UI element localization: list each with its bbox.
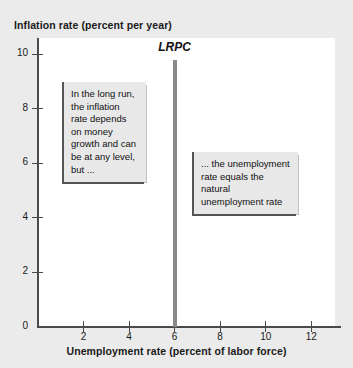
x-tick-label: 12 [298, 331, 324, 342]
x-tick-label: 2 [71, 331, 97, 342]
x-tick-label: 10 [253, 331, 279, 342]
x-tick-label: 4 [116, 331, 142, 342]
y-tick-label: 0 [4, 320, 28, 331]
y-tick-label: 8 [4, 102, 28, 113]
y-tick-label: 10 [4, 47, 28, 58]
y-axis-title: Inflation rate (percent per year) [14, 19, 172, 31]
y-tick-label: 4 [4, 211, 28, 222]
callout-natural-rate: ... the unemployment rate equals the nat… [192, 152, 298, 214]
y-tick-mark [32, 217, 43, 218]
phillips-curve-figure: Inflation rate (percent per year) Unempl… [0, 0, 353, 368]
y-tick-mark [32, 108, 43, 109]
x-axis-title: Unemployment rate (percent of labor forc… [0, 345, 353, 357]
y-tick-label: 2 [4, 265, 28, 276]
y-tick-mark [32, 163, 43, 164]
lrpc-curve [173, 60, 177, 327]
y-tick-mark [32, 54, 43, 55]
y-tick-label: 6 [4, 156, 28, 167]
y-axis-line [37, 38, 39, 328]
x-tick-label: 6 [162, 331, 188, 342]
x-tick-label: 8 [207, 331, 233, 342]
lrpc-curve-label: LRPC [135, 40, 215, 54]
y-tick-mark [32, 272, 43, 273]
callout-long-run: In the long run, the inflation rate depe… [62, 82, 146, 182]
